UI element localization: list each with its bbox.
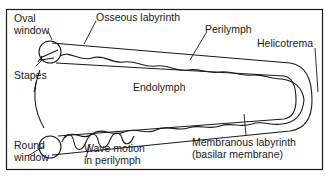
label-round-window-line1: Round — [14, 139, 45, 151]
label-wave-motion-line2: in perilymph — [84, 154, 141, 166]
label-endolymph: Endolymph — [133, 81, 186, 93]
label-perilymph: Perilymph — [205, 23, 252, 35]
label-wave-motion-line1: Wave motion — [84, 142, 145, 154]
label-osseous-labyrinth: Osseous labyrinth — [96, 11, 180, 23]
label-round-window-line2: window — [13, 151, 49, 163]
label-stapes: Stapes — [14, 69, 47, 81]
cochlea-diagram: Oval window Osseous labyrinth Perilymph … — [0, 0, 326, 179]
label-membranous-labyrinth-line1: Membranous labyrinth — [192, 136, 296, 148]
label-membranous-labyrinth-line2: (basilar membrane) — [192, 148, 283, 160]
label-oval-window-line1: Oval — [14, 12, 36, 24]
label-helicotrema: Helicotrema — [257, 37, 313, 49]
label-oval-window-line2: window — [13, 24, 49, 36]
